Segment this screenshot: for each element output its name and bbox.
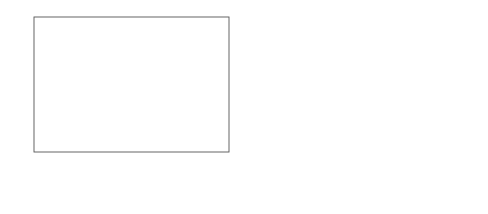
figure-container: 处理时间/min (Ct/C0) /% (a) 处理时间/min ln[Ct/C…: [0, 0, 488, 214]
chart-panel-a: 处理时间/min (Ct/C0) /% (a): [0, 0, 244, 214]
chart-b-svg: [244, 0, 488, 214]
plot-frame-a: [34, 17, 229, 152]
chart-a-svg: [0, 0, 244, 214]
chart-panel-b: 处理时间/min ln[Ct/C0] (b): [244, 0, 488, 214]
plot-border: [34, 17, 229, 152]
